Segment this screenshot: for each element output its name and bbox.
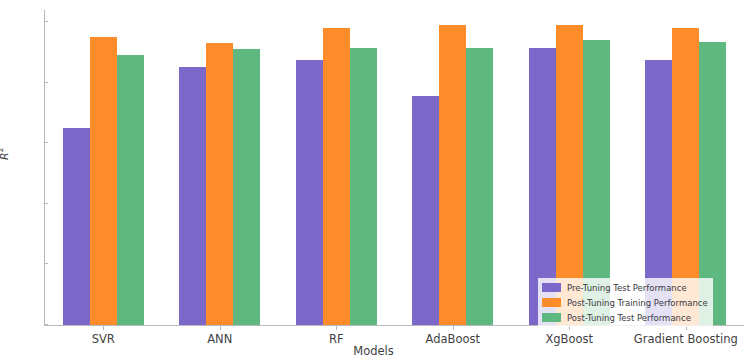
- x-tick-mark: [336, 326, 337, 330]
- bar[interactable]: [233, 49, 260, 325]
- x-axis-ticks: SVRANNRFAdaBoostXgBoostGradient Boosting: [45, 326, 744, 346]
- y-axis-label-text: R: [0, 152, 11, 160]
- x-tick: ANN: [162, 326, 279, 346]
- x-tick-mark: [103, 326, 104, 330]
- bar[interactable]: [206, 43, 233, 325]
- bar-group-bars: [395, 10, 512, 325]
- bar[interactable]: [350, 48, 377, 325]
- legend: Pre-Tuning Test PerformancePost-Tuning T…: [538, 278, 713, 327]
- bar-group-bars: [162, 10, 279, 325]
- legend-swatch: [542, 283, 561, 292]
- bar-group: [162, 10, 279, 325]
- bar-chart-figure: R2 0.00.20.40.60.81.0 SVRANNRFAdaBoostXg…: [0, 0, 747, 361]
- bar[interactable]: [439, 25, 466, 325]
- legend-swatch: [542, 313, 561, 322]
- legend-swatch: [542, 298, 561, 307]
- bar[interactable]: [90, 37, 117, 325]
- bar-group: [278, 10, 395, 325]
- x-tick: Gradient Boosting: [628, 326, 745, 346]
- x-tick-mark: [453, 326, 454, 330]
- bar[interactable]: [117, 55, 144, 325]
- bar-group: [45, 10, 162, 325]
- x-tick: SVR: [45, 326, 162, 346]
- bar[interactable]: [63, 128, 90, 325]
- x-tick: AdaBoost: [395, 326, 512, 346]
- bar-group-bars: [45, 10, 162, 325]
- legend-item[interactable]: Post-Tuning Training Performance: [542, 296, 708, 309]
- x-tick-mark: [220, 326, 221, 330]
- x-tick: RF: [278, 326, 395, 346]
- y-axis-label: R2: [0, 148, 11, 160]
- legend-label: Post-Tuning Test Performance: [567, 313, 691, 323]
- legend-item[interactable]: Pre-Tuning Test Performance: [542, 281, 708, 294]
- bar[interactable]: [323, 28, 350, 325]
- legend-item[interactable]: Post-Tuning Test Performance: [542, 311, 708, 324]
- bar[interactable]: [412, 96, 439, 325]
- legend-label: Post-Tuning Training Performance: [567, 298, 708, 308]
- x-axis-label: Models: [0, 344, 747, 358]
- bar-group: [395, 10, 512, 325]
- x-tick: XgBoost: [511, 326, 628, 346]
- bar[interactable]: [179, 67, 206, 325]
- bar[interactable]: [466, 48, 493, 325]
- legend-label: Pre-Tuning Test Performance: [567, 283, 687, 293]
- bar[interactable]: [296, 60, 323, 325]
- bar-group-bars: [278, 10, 395, 325]
- y-axis-label-exponent: 2: [0, 148, 5, 153]
